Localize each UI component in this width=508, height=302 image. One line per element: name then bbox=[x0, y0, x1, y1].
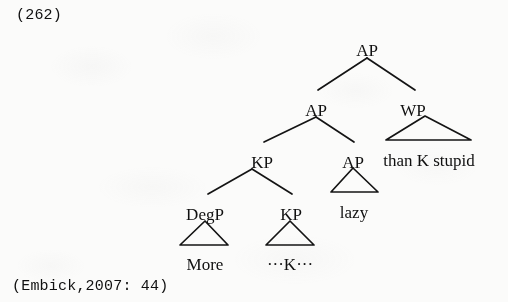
tree-node-degp: DegP bbox=[186, 206, 224, 223]
tree-node-kp-upper: KP bbox=[251, 154, 273, 171]
tree-triangle bbox=[180, 221, 228, 245]
tree-branch bbox=[252, 169, 292, 194]
tree-leaf-kp-leaf: ···K··· bbox=[267, 256, 313, 273]
tree-branch bbox=[264, 117, 316, 142]
tree-leaf-ap-leaf: lazy bbox=[340, 204, 368, 221]
tree-node-ap-left: AP bbox=[305, 102, 327, 119]
syntax-tree-figure: (262) APAPWPKPAPDegPKPthan K stupidlazyM… bbox=[0, 0, 508, 302]
tree-triangle bbox=[386, 116, 471, 140]
tree-leaf-wp-leaf: than K stupid bbox=[383, 152, 475, 169]
tree-branch bbox=[208, 169, 252, 194]
tree-triangle bbox=[266, 221, 314, 245]
tree-branch bbox=[367, 58, 415, 90]
tree-node-ap-lower: AP bbox=[342, 154, 364, 171]
tree-node-kp-lower: KP bbox=[280, 206, 302, 223]
tree-leaf-degp-leaf: More bbox=[187, 256, 224, 273]
citation-label: (Embick,2007: 44) bbox=[12, 279, 168, 294]
tree-node-ap-root: AP bbox=[356, 42, 378, 59]
tree-node-wp: WP bbox=[400, 102, 426, 119]
tree-branch bbox=[318, 58, 367, 90]
tree-branch bbox=[316, 117, 354, 142]
